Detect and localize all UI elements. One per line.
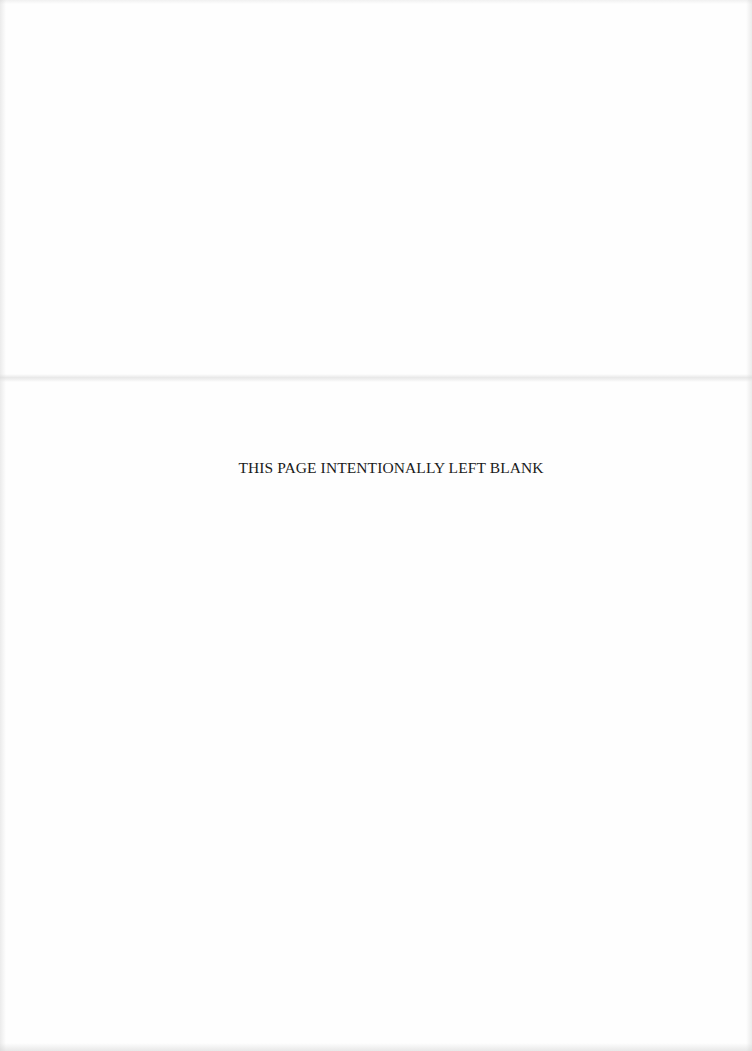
blank-page-notice: THIS PAGE INTENTIONALLY LEFT BLANK [0,459,752,477]
fold-crease [0,374,752,382]
scan-edge-right [746,0,752,1051]
scan-edge-top [0,0,752,4]
document-page: THIS PAGE INTENTIONALLY LEFT BLANK [0,0,752,1051]
scan-edge-bottom [0,1043,752,1051]
scan-edge-left [0,0,6,1051]
